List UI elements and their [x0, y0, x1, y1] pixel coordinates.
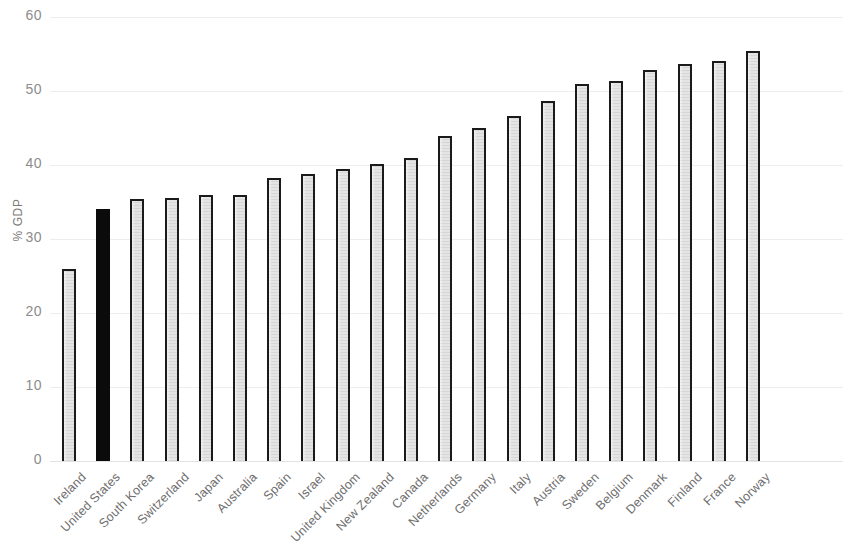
y-axis-tick-label: 50 — [2, 81, 42, 97]
bar-fill-texture — [201, 197, 211, 461]
bar-fill-texture — [167, 200, 177, 461]
bar-fill-texture — [474, 130, 484, 461]
bar — [233, 195, 247, 461]
bar — [404, 158, 418, 461]
bar — [130, 199, 144, 461]
bar-fill-texture — [338, 171, 348, 461]
bar-fill-texture — [680, 66, 690, 461]
bar — [472, 128, 486, 461]
y-axis-tick-label: 40 — [2, 155, 42, 171]
bar-fill-texture — [509, 118, 519, 461]
bar-fill-texture — [543, 103, 553, 461]
plot-area: 6050403020100 — [50, 10, 843, 463]
gridline — [50, 17, 843, 18]
bar — [541, 101, 555, 461]
y-axis-tick-label: 60 — [2, 7, 42, 23]
bar — [62, 269, 76, 461]
bar — [438, 136, 452, 461]
bar — [370, 164, 384, 461]
bar — [746, 51, 760, 461]
bar — [96, 209, 110, 461]
bar — [678, 64, 692, 461]
bar — [507, 116, 521, 461]
bar-fill-texture — [577, 86, 587, 461]
bar — [165, 198, 179, 461]
bar — [609, 81, 623, 461]
bar — [301, 174, 315, 461]
y-axis-tick-label: 10 — [2, 377, 42, 393]
bar-fill-texture — [714, 63, 724, 461]
x-axis-ticks: IrelandUnited StatesSouth KoreaSwitzerla… — [50, 470, 843, 554]
bar-fill-texture — [406, 160, 416, 461]
bar — [575, 84, 589, 461]
bar-fill-texture — [64, 271, 74, 461]
bar-fill-texture — [303, 176, 313, 461]
bar-fill-texture — [235, 197, 245, 461]
gridline — [50, 461, 843, 462]
bar-chart: % GDP 6050403020100 IrelandUnited States… — [0, 0, 843, 554]
bar-fill-texture — [440, 138, 450, 461]
y-axis-tick-label: 0 — [2, 451, 42, 467]
bar-fill-texture — [269, 180, 279, 461]
bar — [712, 61, 726, 461]
y-axis-tick-label: 30 — [2, 229, 42, 245]
bar-fill-texture — [372, 166, 382, 461]
bar-fill-texture — [645, 72, 655, 461]
bar — [267, 178, 281, 461]
bar — [199, 195, 213, 461]
bar — [336, 169, 350, 461]
y-axis-tick-label: 20 — [2, 303, 42, 319]
bar-fill-texture — [748, 53, 758, 461]
bar — [643, 70, 657, 461]
bar-fill-texture — [611, 83, 621, 461]
bar-fill-texture — [132, 201, 142, 461]
